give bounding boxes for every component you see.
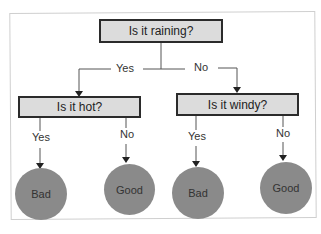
leaf-good-1: Good [104, 164, 155, 215]
windy-question-box: Is it windy? [176, 93, 299, 116]
edge-label-windy-no: No [274, 127, 292, 139]
edge-label-windy-yes: Yes [186, 130, 208, 142]
hot-question-box: Is it hot? [18, 96, 141, 118]
leaf-good-2: Good [260, 162, 312, 214]
edge-label-root-no: No [192, 61, 210, 73]
root-question-box: Is it raining? [99, 19, 223, 43]
leaf-bad-2: Bad [172, 167, 224, 219]
edge-label-hot-no: No [118, 128, 136, 140]
edge-label-hot-yes: Yes [30, 131, 52, 143]
leaf-bad-1: Bad [15, 168, 67, 220]
edge-label-root-yes: Yes [114, 62, 136, 74]
